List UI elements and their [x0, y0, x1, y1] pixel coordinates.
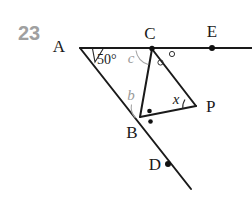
vertex-label-E: E — [207, 22, 217, 41]
angle-mark-circle-C-2 — [169, 51, 174, 56]
line-A-to-D — [80, 48, 191, 189]
angle-label-A-50: 50° — [97, 52, 117, 67]
vertex-label-P: P — [206, 97, 215, 116]
angle-arc-B-b — [131, 105, 135, 118]
point-dot-D — [165, 161, 171, 167]
vertex-label-D: D — [149, 155, 161, 174]
point-dot-C — [149, 46, 154, 51]
problem-number: 23 — [18, 22, 40, 44]
vertex-label-A: A — [53, 37, 66, 56]
angle-arc-C-c — [136, 51, 148, 65]
geometry-figure: 23 A C E B D P 50° c b x — [0, 0, 252, 198]
angle-mark-dot-B-2 — [148, 119, 153, 124]
segment-C-to-B — [140, 49, 152, 117]
angle-label-P-x: x — [172, 91, 180, 107]
vertex-label-B: B — [126, 123, 137, 142]
angle-label-B-b: b — [127, 87, 135, 103]
vertex-label-C: C — [144, 24, 155, 43]
point-dot-E — [209, 45, 215, 51]
angle-label-C-c: c — [128, 50, 135, 66]
angle-mark-dot-B-1 — [147, 109, 152, 114]
geometry-diagram-canvas: 23 A C E B D P 50° c b x — [0, 0, 252, 198]
